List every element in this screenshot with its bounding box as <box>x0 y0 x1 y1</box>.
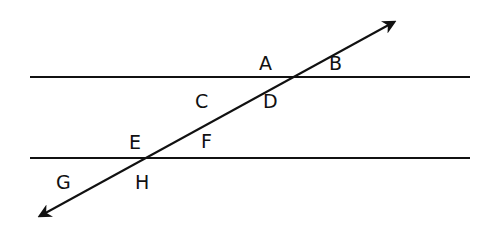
angle-label-a: A <box>259 54 272 73</box>
angle-label-e: E <box>129 133 141 152</box>
angle-label-b: B <box>329 54 342 73</box>
angle-label-f: F <box>201 132 212 151</box>
angle-label-g: G <box>56 173 71 192</box>
angle-label-d: D <box>263 92 278 111</box>
diagram-svg <box>0 0 492 232</box>
angle-label-c: C <box>195 92 208 111</box>
diagram-canvas: A B C D E F G H <box>0 0 492 232</box>
angle-label-h: H <box>135 173 149 192</box>
